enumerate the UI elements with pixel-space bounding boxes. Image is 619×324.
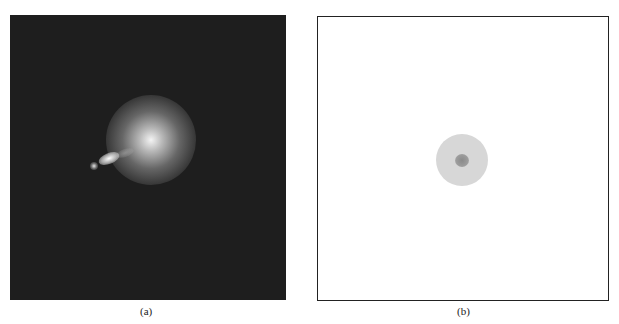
panel-b-caption: (b) [457, 305, 470, 317]
small-knot [90, 162, 98, 170]
panel-b-schematic [317, 16, 609, 301]
panel-a-caption: (a) [140, 305, 152, 317]
bright-diffuse-source [106, 95, 196, 185]
inner-core [455, 154, 469, 167]
panel-a-image [10, 15, 286, 300]
